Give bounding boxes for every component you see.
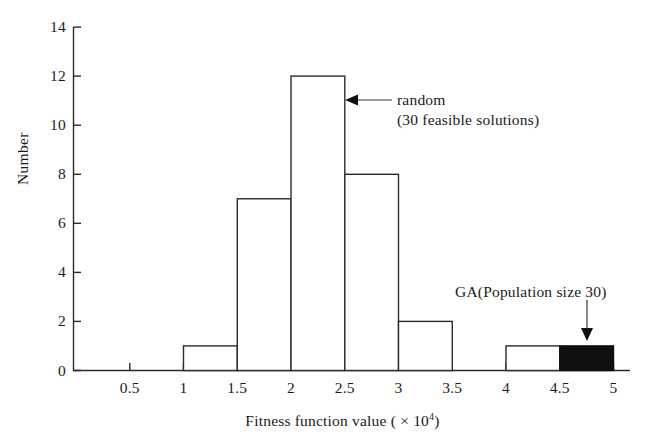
x-tick-label-0.5: 0.5 <box>120 380 140 396</box>
bar-4.0-4.5 <box>506 346 560 371</box>
annotation-ga-line1: GA(Population size 30) <box>455 282 607 302</box>
x-tick-label-4: 4 <box>502 380 510 396</box>
annotation-ga: GA(Population size 30) <box>455 282 607 302</box>
bar-1.5-2.0 <box>237 199 291 371</box>
x-tick-label-1: 1 <box>180 380 188 396</box>
plot-area <box>0 0 645 446</box>
bar-2.0-2.5 <box>291 76 345 370</box>
annotation-random-line2: (30 feasible solutions) <box>397 110 539 130</box>
y-tick-label-12: 12 <box>24 68 66 84</box>
x-tick-label-3.5: 3.5 <box>442 380 462 396</box>
bar-4.5-5.0-ga <box>560 346 614 371</box>
x-axis-title-text: Fitness function value ( × 10 <box>245 412 429 429</box>
x-tick-label-1.5: 1.5 <box>227 380 247 396</box>
annotation-random-line1: random <box>397 90 539 110</box>
x-tick-label-5: 5 <box>610 380 618 396</box>
x-tick-label-2: 2 <box>287 380 295 396</box>
random-annotation-arrow <box>345 95 392 106</box>
x-axis-title-suffix: ) <box>434 412 439 429</box>
y-tick-label-2: 2 <box>24 314 66 330</box>
bar-1.0-1.5 <box>184 346 238 371</box>
histogram-figure: 0 2 4 6 8 10 12 14 0.5 1 1.5 2 2.5 3 3.5… <box>0 0 645 446</box>
y-tick-label-6: 6 <box>24 216 66 232</box>
bar-2.5-3.0 <box>345 174 399 370</box>
x-tick-label-2.5: 2.5 <box>335 380 355 396</box>
x-axis-title: Fitness function value ( × 104) <box>73 412 612 430</box>
x-tick-label-3: 3 <box>395 380 403 396</box>
bar-3.0-3.5 <box>399 321 453 370</box>
y-tick-label-10: 10 <box>24 117 66 133</box>
y-axis-ticks <box>74 27 82 370</box>
y-tick-label-0: 0 <box>24 363 66 379</box>
y-tick-label-4: 4 <box>24 265 66 281</box>
ga-annotation-arrow <box>581 300 593 341</box>
y-tick-label-14: 14 <box>24 19 66 35</box>
y-axis-title: Number <box>14 132 32 185</box>
x-tick-label-4.5: 4.5 <box>550 380 570 396</box>
annotation-random: random (30 feasible solutions) <box>397 90 539 131</box>
